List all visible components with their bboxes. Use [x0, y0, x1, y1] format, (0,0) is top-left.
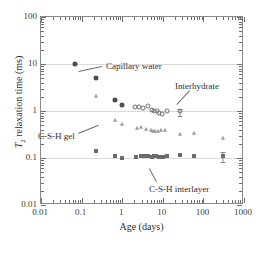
error-bar-cap [220, 152, 225, 153]
x-axis-tick-label: 10 [157, 207, 166, 217]
y-axis-minor-tick [239, 116, 242, 117]
y-axis-minor-tick [41, 116, 44, 117]
data-point-capillary-water [93, 76, 98, 81]
x-axis-minor-tick [94, 17, 95, 20]
x-axis-minor-tick [161, 200, 162, 203]
x-axis-minor-tick [232, 200, 233, 203]
y-axis-minor-tick [239, 183, 242, 184]
x-axis-minor-tick [110, 200, 111, 203]
y-axis-minor-tick [41, 97, 44, 98]
x-axis-minor-tick [228, 200, 229, 203]
x-axis-major-tick [82, 198, 83, 203]
x-axis-minor-tick [187, 200, 188, 203]
data-point-c-s-h-gel [113, 118, 117, 122]
x-axis-minor-tick [182, 17, 183, 20]
data-point-c-s-h-interlayer [120, 156, 124, 160]
y-axis-tick-label: 10 [28, 58, 37, 68]
x-axis-minor-tick [199, 200, 200, 203]
chart-figure: Capillary waterInterhydrateC-S-H gelC-S-… [0, 0, 269, 257]
x-axis-minor-tick [78, 200, 79, 203]
x-axis-minor-tick [235, 200, 236, 203]
x-axis-minor-tick [175, 17, 176, 20]
y-axis-minor-tick [41, 74, 44, 75]
y-axis-label-subscript: 2 [19, 139, 27, 143]
data-point-c-s-h-interlayer [221, 154, 225, 158]
y-axis-minor-tick [239, 27, 242, 28]
data-point-c-s-h-gel [120, 122, 124, 126]
x-axis-minor-tick [106, 17, 107, 20]
x-axis-minor-tick [101, 17, 102, 20]
x-axis-minor-tick [113, 17, 114, 20]
y-axis-minor-tick [41, 172, 44, 173]
y-axis-minor-tick [239, 121, 242, 122]
y-axis-tick-label: 0.1 [26, 152, 37, 162]
x-axis-major-tick [82, 17, 83, 22]
x-axis-label: Age (days) [40, 221, 243, 232]
annotation-label-c-s-h-gel: C-S-H gel [38, 131, 75, 141]
y-axis-minor-tick [239, 97, 242, 98]
y-axis-minor-tick [239, 172, 242, 173]
gridline [41, 111, 242, 112]
x-axis-tick-label: 0.01 [32, 207, 48, 217]
x-axis-minor-tick [187, 17, 188, 20]
x-axis-minor-tick [223, 200, 224, 203]
y-axis-minor-tick [239, 163, 242, 164]
y-axis-minor-tick [41, 31, 44, 32]
data-point-interhydrate [177, 109, 182, 114]
x-axis-tick-label: 1 [119, 207, 124, 217]
y-axis-label-symbol: T [13, 143, 24, 149]
y-axis-minor-tick [41, 66, 44, 67]
y-axis-minor-tick [239, 191, 242, 192]
data-point-capillary-water [120, 102, 125, 107]
data-point-c-s-h-interlayer [134, 155, 138, 159]
x-axis-minor-tick [73, 200, 74, 203]
x-axis-major-tick [244, 198, 245, 203]
y-axis-tick-label: 100 [24, 11, 38, 21]
x-axis-minor-tick [147, 17, 148, 20]
x-axis-minor-tick [191, 200, 192, 203]
x-axis-minor-tick [120, 200, 121, 203]
data-point-c-s-h-interlayer [178, 153, 182, 157]
y-axis-major-tick [237, 205, 242, 206]
y-axis-major-tick [237, 158, 242, 159]
y-axis-minor-tick [41, 50, 44, 51]
x-axis-minor-tick [151, 17, 152, 20]
y-axis-minor-tick [41, 118, 44, 119]
y-axis-major-tick [41, 64, 46, 65]
y-axis-minor-tick [239, 168, 242, 169]
error-bar-cap [220, 162, 225, 163]
annotation-leader-c-s-h-gel [78, 125, 98, 134]
data-point-c-s-h-interlayer [161, 155, 165, 159]
annotation-leader-interhydrate [176, 90, 190, 105]
x-axis-minor-tick [154, 17, 155, 20]
y-axis-minor-tick [41, 144, 44, 145]
x-axis-minor-tick [182, 200, 183, 203]
x-axis-minor-tick [94, 200, 95, 203]
y-axis-major-tick [41, 158, 46, 159]
y-axis-minor-tick [239, 66, 242, 67]
data-point-capillary-water [73, 62, 78, 67]
x-axis-minor-tick [197, 17, 198, 20]
y-axis-minor-tick [239, 31, 242, 32]
annotation-leader-c-s-h-interlayer [149, 169, 157, 182]
x-axis-minor-tick [147, 200, 148, 203]
y-axis-minor-tick [239, 24, 242, 25]
y-axis-minor-tick [41, 69, 44, 70]
annotation-label-interhydrate: Interhydrate [175, 81, 219, 91]
y-axis-minor-tick [41, 121, 44, 122]
y-axis-minor-tick [41, 163, 44, 164]
x-axis-minor-tick [142, 200, 143, 203]
x-axis-minor-tick [65, 200, 66, 203]
x-axis-minor-tick [65, 17, 66, 20]
x-axis-minor-tick [116, 17, 117, 20]
x-axis-minor-tick [78, 17, 79, 20]
y-axis-minor-tick [239, 177, 242, 178]
x-axis-major-tick [41, 17, 42, 22]
data-point-c-s-h-interlayer [192, 154, 196, 158]
x-axis-major-tick [203, 198, 204, 203]
y-axis-major-tick [41, 111, 46, 112]
y-axis-minor-tick [239, 50, 242, 51]
y-axis-minor-tick [239, 89, 242, 90]
x-axis-minor-tick [116, 200, 117, 203]
y-axis-minor-tick [239, 71, 242, 72]
